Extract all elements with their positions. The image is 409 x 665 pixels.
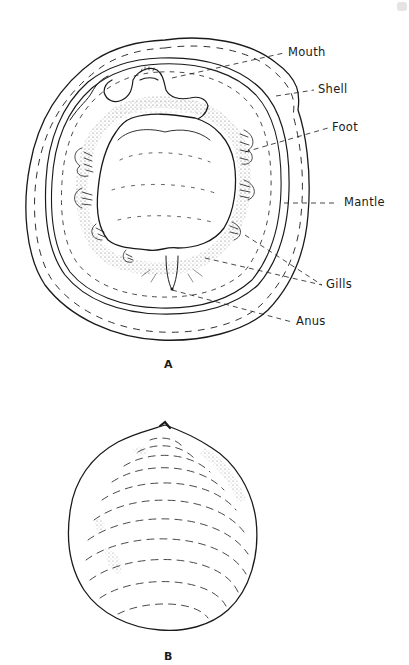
figure-b-drawing <box>69 422 257 630</box>
limpet-diagram <box>0 0 409 665</box>
label-anus: Anus <box>296 314 326 328</box>
label-gills: Gills <box>326 277 352 291</box>
label-mantle: Mantle <box>344 195 385 209</box>
label-mouth: Mouth <box>288 45 326 59</box>
foot <box>97 114 235 250</box>
mouth-opening <box>140 78 158 80</box>
label-shell: Shell <box>318 82 348 96</box>
figure-a-drawing <box>26 38 309 340</box>
label-foot: Foot <box>332 120 358 134</box>
figure-a-caption: A <box>164 358 173 371</box>
figure-b-caption: B <box>164 650 172 663</box>
